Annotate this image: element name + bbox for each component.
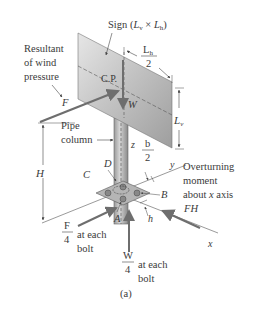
bolt-d: [120, 184, 126, 190]
z-axis-label: z: [130, 139, 135, 150]
h-small-label: h: [148, 213, 153, 224]
w-bolt-label: W 4 at each bolt: [122, 250, 168, 284]
bolt-a: [120, 196, 126, 202]
wind-label-line3: pressure: [24, 71, 59, 82]
h-tick: [140, 200, 147, 203]
svg-text:2: 2: [146, 58, 151, 69]
f-bolt-arrow: [78, 208, 116, 226]
force-f-label: F: [61, 97, 69, 108]
wind-leader-line: [52, 85, 62, 97]
svg-text:at each: at each: [138, 259, 168, 270]
svg-text:Lh: Lh: [143, 44, 153, 57]
bolt-c: [105, 190, 111, 196]
svg-text:W: W: [123, 250, 133, 261]
svg-text:b: b: [145, 138, 150, 149]
wind-label-line2: of wind: [24, 57, 57, 68]
svg-text:2: 2: [145, 152, 150, 163]
svg-text:at each: at each: [77, 229, 107, 240]
weight-w-label: W: [128, 99, 138, 110]
svg-text:F: F: [64, 220, 70, 231]
sign-structure-diagram: Sign (Lv × Lh) Resultant of wind pressur…: [0, 0, 254, 314]
cp-label: C.P.: [101, 73, 117, 84]
y-axis-label: y: [169, 159, 175, 170]
moment-label-line1: Overturning: [183, 161, 235, 172]
fh-label: FH: [183, 203, 199, 214]
lv-label: Lv: [173, 114, 184, 128]
svg-text:bolt: bolt: [77, 243, 93, 254]
svg-text:4: 4: [64, 234, 70, 245]
point-d-label: D: [103, 158, 112, 169]
point-a-label: A: [113, 213, 121, 224]
b-half-arrow: [145, 172, 148, 180]
point-c-label: C: [83, 169, 91, 180]
point-b-label: B: [161, 189, 168, 200]
b-half-label: b 2: [142, 138, 154, 163]
bolt-b: [134, 190, 140, 196]
sign-title: Sign (Lv × Lh): [108, 19, 167, 32]
height-h-label: H: [35, 167, 45, 179]
f-bolt-label: F 4 at each bolt: [62, 220, 107, 254]
svg-text:4: 4: [125, 264, 131, 275]
svg-text:bolt: bolt: [138, 273, 154, 284]
lh-half-label: Lh 2: [141, 44, 157, 69]
pipe-label-line2: column: [61, 134, 93, 145]
moment-label-line2: moment: [183, 175, 217, 186]
moment-label-line3: about x axis: [183, 189, 233, 200]
x-axis-label: x: [207, 238, 213, 249]
pipe-label-line1: Pipe: [61, 120, 80, 131]
figure-caption: (a): [120, 288, 132, 300]
pipe-column: [114, 118, 128, 224]
wind-label-line1: Resultant: [24, 43, 64, 54]
